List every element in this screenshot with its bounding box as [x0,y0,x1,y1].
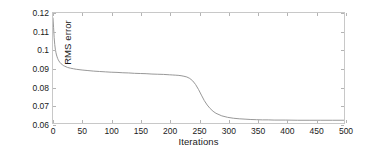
x-tick-mark [53,120,54,123]
x-tick-mark-top [258,13,259,16]
x-tick-mark-top [346,13,347,16]
y-tick-mark [53,69,56,70]
x-tick-label: 450 [310,126,324,136]
y-tick-mark-right [341,32,344,33]
x-tick-label: 500 [339,126,353,136]
x-tick-label: 0 [51,126,56,136]
y-tick-label: 0.1 [37,45,49,55]
y-tick-mark-right [341,13,344,14]
x-tick-mark-top [170,13,171,16]
x-tick-mark-top [53,13,54,16]
x-tick-mark [82,120,83,123]
x-tick-mark [258,120,259,123]
y-tick-label: 0.08 [32,83,49,93]
y-tick-mark-right [341,50,344,51]
y-axis-title: RMS error [62,0,73,99]
y-tick-label: 0.09 [32,64,49,74]
y-tick-mark-right [341,106,344,107]
y-tick-mark [53,50,56,51]
x-tick-label: 300 [222,126,236,136]
x-axis-title: Iterations [52,136,345,147]
x-tick-mark [112,120,113,123]
x-tick-label: 100 [105,126,119,136]
x-tick-mark [317,120,318,123]
x-tick-mark [141,120,142,123]
chart-figure: 0.060.070.080.090.10.110.12 050100150200… [0,0,365,154]
y-tick-mark [53,88,56,89]
y-tick-mark [53,106,56,107]
x-tick-mark [200,120,201,123]
rms-error-curve [53,13,344,123]
x-tick-mark [287,120,288,123]
x-tick-mark-top [112,13,113,16]
y-tick-mark-right [341,69,344,70]
x-tick-mark-top [317,13,318,16]
x-tick-label: 250 [192,126,206,136]
x-tick-mark-top [82,13,83,16]
x-tick-mark-top [200,13,201,16]
x-tick-mark-top [287,13,288,16]
y-tick-label: 0.06 [32,120,49,130]
y-tick-label: 0.12 [32,8,49,18]
x-tick-label: 50 [78,126,87,136]
plot-area: 0.060.070.080.090.10.110.12 050100150200… [52,12,345,124]
y-tick-mark-right [341,88,344,89]
x-tick-mark [346,120,347,123]
x-tick-mark [170,120,171,123]
x-tick-label: 150 [134,126,148,136]
x-tick-mark [229,120,230,123]
x-tick-label: 200 [163,126,177,136]
y-tick-label: 0.11 [33,27,49,37]
x-tick-mark-top [141,13,142,16]
y-tick-label: 0.07 [32,101,49,111]
x-tick-label: 350 [251,126,265,136]
y-tick-mark [53,32,56,33]
x-tick-mark-top [229,13,230,16]
x-tick-label: 400 [280,126,294,136]
